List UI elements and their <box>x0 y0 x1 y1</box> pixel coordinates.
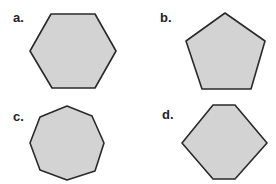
hexagon-d <box>182 105 267 179</box>
pentagon-b <box>186 13 265 89</box>
label-c: c. <box>13 109 24 124</box>
hexagon-a <box>30 14 116 88</box>
label-d: d. <box>162 107 174 122</box>
label-a: a. <box>13 10 24 25</box>
polygon-figure: a. b. c. d. <box>0 0 276 184</box>
octagon-c <box>30 106 104 180</box>
label-b: b. <box>160 10 172 25</box>
